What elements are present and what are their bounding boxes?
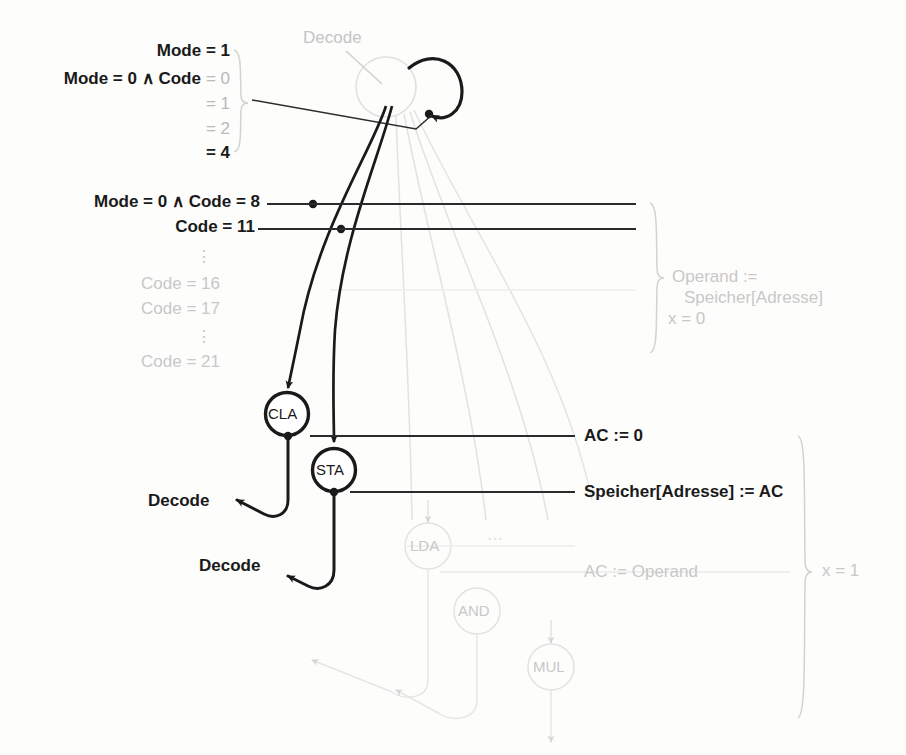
diagram-canvas: Mode = 1 Mode = 0 ∧ Code= 0 = 1 = 2 = 4 … <box>0 0 906 755</box>
brace-operand-group <box>650 203 664 353</box>
condition-code-eq4: = 4 <box>130 143 230 162</box>
and-return-loop <box>396 690 477 718</box>
return-label-decode-sta: Decode <box>199 556 260 575</box>
brace-x1-group <box>798 436 812 718</box>
faint-braces <box>234 50 812 718</box>
action-store-ac: Speicher[Adresse] := AC <box>584 482 783 501</box>
faint-background-graph <box>312 51 790 742</box>
edge-cla-to-decode <box>237 437 288 516</box>
diagram-vector-layer <box>0 0 906 755</box>
cla-node-label: CLA <box>268 406 297 423</box>
edge-sta-to-decode <box>288 492 334 588</box>
sta-node-label: STA <box>316 462 344 479</box>
condition-code21: Code = 21 <box>40 352 220 371</box>
fan-curve-2 <box>404 114 486 520</box>
condition-code-eq1: = 1 <box>130 94 230 113</box>
condition-code11: Code = 11 <box>40 217 255 236</box>
fan-curve-4 <box>414 110 592 500</box>
edge-decode-to-cla <box>288 106 386 388</box>
action-operand-line2: Speicher[Adresse] <box>684 288 823 307</box>
decode-label-leader <box>346 51 382 84</box>
condition-mode0-code-row: Mode = 0 ∧ Code= 0 <box>20 68 230 89</box>
action-operand-line1: Operand := <box>672 267 758 286</box>
fan-curve-1 <box>396 116 412 520</box>
main-graph <box>237 59 636 589</box>
condition-ellipsis-2: ⋮ <box>196 328 212 346</box>
condition-ellipsis-1: ⋮ <box>196 248 212 266</box>
lda-return-loop <box>312 660 428 697</box>
fan-curve-3 <box>410 112 548 520</box>
brace-top-left <box>234 50 248 152</box>
condition-code17: Code = 17 <box>40 299 220 318</box>
action-x1: x = 1 <box>822 561 859 580</box>
condition-mode0-code-prefix: Mode = 0 ∧ Code <box>64 69 201 88</box>
condition-mode1: Mode = 1 <box>40 41 230 60</box>
action-ac0: AC := 0 <box>584 426 643 445</box>
condition-code16: Code = 16 <box>40 274 220 293</box>
lda-node-label: LDA <box>410 538 439 555</box>
condition-code-eq2: = 2 <box>130 119 230 138</box>
condition-code8: Mode = 0 ∧ Code = 8 <box>40 192 260 211</box>
condition-leader-line <box>252 100 432 129</box>
mul-node-label: MUL <box>533 659 565 676</box>
action-ac-operand: AC := Operand <box>584 562 698 581</box>
action-x0: x = 0 <box>668 309 705 328</box>
and-node-label: AND <box>458 603 490 620</box>
condition-code-eq0: = 0 <box>206 69 230 88</box>
decode-self-loop <box>409 59 462 118</box>
return-label-decode-cla: Decode <box>148 491 209 510</box>
decode-node-label: Decode <box>303 28 362 47</box>
node-ellipsis: ⋯ <box>487 530 503 548</box>
